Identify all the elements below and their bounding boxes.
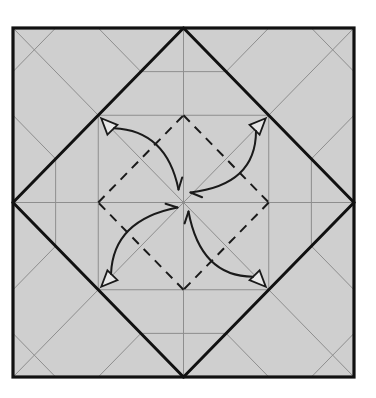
crease-pattern-diagram: [0, 0, 376, 398]
thin-crease-lines: [13, 28, 354, 377]
